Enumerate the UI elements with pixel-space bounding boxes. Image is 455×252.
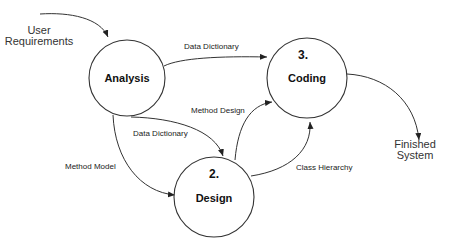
process-number: 2. <box>209 167 219 181</box>
process-label: Analysis <box>104 72 149 84</box>
process-number: 3. <box>298 48 308 62</box>
external-output: Finished System <box>394 138 436 161</box>
external-output-line2: System <box>397 149 434 161</box>
process-label: Coding <box>288 72 326 84</box>
flow-analysis-to-coding-data-dictionary <box>164 57 267 66</box>
process-design: 2. Design <box>174 157 254 237</box>
process-label: Design <box>196 192 233 204</box>
flow-coding-to-finished-system <box>347 74 419 140</box>
edge-label-method-design: Method Design <box>191 106 245 115</box>
external-input-line2: Requirements <box>5 35 74 47</box>
process-coding: 3. Coding <box>267 38 347 118</box>
process-analysis: Analysis <box>89 40 165 116</box>
diagram-canvas: Analysis 2. Design 3. Coding User Requir… <box>0 0 455 252</box>
edge-label-class-hierarchy: Class Hierarchy <box>296 163 352 172</box>
flow-analysis-to-design-method-model <box>113 115 175 195</box>
edge-label-method-model: Method Model <box>65 162 116 171</box>
edge-label-data-dictionary-top: Data Dictionary <box>184 42 239 51</box>
edge-label-data-dictionary-lower: Data Dictionary <box>133 129 188 138</box>
external-input: User Requirements <box>5 24 74 47</box>
